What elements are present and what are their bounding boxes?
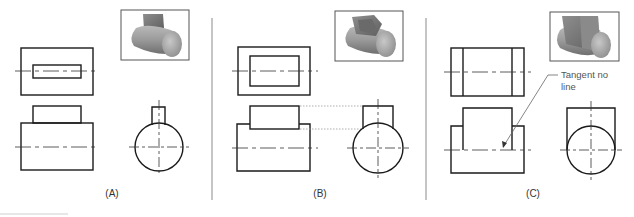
tangent-leader [502, 75, 558, 148]
front-view-c [451, 108, 524, 173]
orthographic-views-figure: (A) (B) [0, 0, 634, 217]
panel-c: Tangent no line (C) [444, 12, 622, 199]
caption-b: (B) [313, 188, 326, 199]
caption-c: (C) [526, 188, 540, 199]
isometric-thumbnail-b [335, 11, 403, 61]
panel-b: (B) [232, 11, 409, 199]
annotation-line-1: Tangent no [561, 69, 608, 80]
annotation-line-2: line [561, 81, 576, 92]
panel-a: (A) [15, 10, 189, 199]
front-view-a [21, 106, 93, 170]
top-view-a [21, 48, 93, 95]
isometric-thumbnail-a [121, 10, 189, 60]
front-view-b [237, 106, 310, 171]
caption-a: (A) [105, 188, 118, 199]
isometric-thumbnail-c [550, 12, 619, 61]
